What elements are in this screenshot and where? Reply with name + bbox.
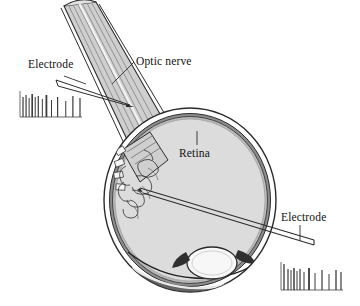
lens [187, 247, 237, 279]
raster-right-axis [281, 262, 343, 290]
label-retina: Retina [179, 147, 210, 159]
label-electrode-left: Electrode [28, 58, 73, 70]
figure-canvas: Electrode Optic nerve Retina Electrode [0, 0, 360, 306]
leader-line-electrode-left [64, 76, 86, 84]
label-optic-nerve: Optic nerve [136, 55, 192, 68]
label-electrode-right: Electrode [281, 211, 326, 223]
spike-train-right [281, 262, 343, 290]
eye-diagram: Electrode Optic nerve Retina Electrode [0, 0, 360, 306]
optic-nerve-highlight [80, 4, 148, 138]
spike-train-left [20, 91, 82, 117]
